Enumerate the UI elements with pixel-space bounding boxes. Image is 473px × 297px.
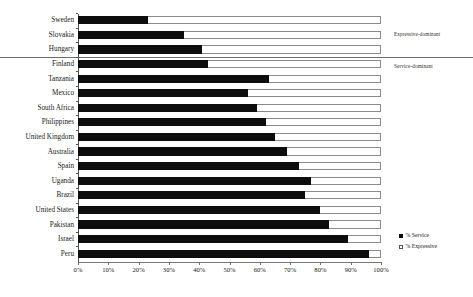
x-axis-tick — [260, 262, 261, 265]
y-axis-tick — [76, 173, 79, 174]
filled-square-icon — [399, 234, 403, 238]
bar-row: Sweden — [78, 14, 381, 29]
bar-segment-service — [78, 133, 275, 141]
bar-segment-service — [78, 147, 287, 155]
bar-segment-service — [78, 235, 348, 243]
y-axis-tick — [76, 130, 79, 131]
y-axis-tick — [76, 203, 79, 204]
y-axis-tick — [76, 246, 79, 247]
bar-row: South Africa — [78, 102, 381, 117]
y-axis-tick — [76, 42, 79, 43]
x-axis-tick — [108, 262, 109, 265]
x-axis-tick — [169, 262, 170, 265]
bar-row: United Kingdom — [78, 131, 381, 146]
x-axis-tick-label: 80% — [314, 266, 326, 273]
x-axis-tick — [78, 262, 79, 265]
y-axis-tick — [76, 71, 79, 72]
bar-segment-service — [78, 250, 369, 258]
x-axis-tick-label: 100% — [373, 266, 388, 273]
plot-area: SwedenSlovakiaHungaryFinlandTanzaniaMexi… — [78, 14, 381, 262]
bar-row: Mexico — [78, 87, 381, 102]
bar-row: Spain — [78, 160, 381, 175]
legend-item: % Service — [399, 233, 469, 239]
x-axis-tick — [320, 262, 321, 265]
x-axis-tick-label: 20% — [133, 266, 145, 273]
x-axis-tick-label: 60% — [254, 266, 266, 273]
bar-segment-service — [78, 206, 320, 214]
category-label: Tanzania — [48, 76, 74, 83]
bar-row: Brazil — [78, 189, 381, 204]
y-axis-tick — [76, 101, 79, 102]
x-axis-tick-label: 0% — [74, 266, 83, 273]
bar-segment-service — [78, 191, 305, 199]
category-label: Pakistan — [50, 222, 74, 229]
category-label: Sweden — [51, 18, 74, 25]
bar-row: Hungary — [78, 43, 381, 58]
category-label: South Africa — [37, 105, 74, 112]
hollow-square-icon — [399, 245, 403, 249]
x-axis-tick — [290, 262, 291, 265]
y-axis-tick — [76, 159, 79, 160]
category-label: United Kingdom — [25, 134, 74, 141]
bar-row: Australia — [78, 145, 381, 160]
bar-segment-service — [78, 177, 311, 185]
x-axis-tick — [381, 262, 382, 265]
bar-segment-service — [78, 60, 208, 68]
x-axis-tick-label: 40% — [193, 266, 205, 273]
x-axis-tick-label: 30% — [163, 266, 175, 273]
x-axis-tick — [230, 262, 231, 265]
bar-segment-service — [78, 89, 248, 97]
bar-row: Israel — [78, 233, 381, 248]
category-label: Mexico — [52, 91, 74, 98]
legend-label: % Service — [405, 233, 429, 239]
x-axis-tick — [351, 262, 352, 265]
bar-segment-service — [78, 220, 329, 228]
category-label: Brazil — [56, 193, 74, 200]
legend-item: % Expressive — [399, 244, 469, 250]
category-label: Peru — [61, 251, 74, 258]
category-label: United States — [35, 207, 74, 214]
bar-row: Uganda — [78, 174, 381, 189]
y-axis-tick — [76, 232, 79, 233]
bar-segment-service — [78, 118, 266, 126]
stacked-bar-chart: Expressive-dominant Service-dominant Swe… — [0, 0, 473, 297]
y-axis-tick — [76, 13, 79, 14]
category-label: Spain — [58, 164, 74, 171]
x-axis-tick-label: 70% — [284, 266, 296, 273]
y-axis-tick — [76, 57, 79, 58]
y-axis-tick — [76, 144, 79, 145]
y-axis-tick — [76, 217, 79, 218]
bar-segment-service — [78, 162, 299, 170]
bar-segment-service — [78, 16, 148, 24]
annotation-service-dominant: Service-dominant — [394, 63, 433, 69]
y-axis-tick — [76, 28, 79, 29]
y-axis-tick — [76, 188, 79, 189]
bar-row: Slovakia — [78, 29, 381, 44]
bar-row: Pakistan — [78, 218, 381, 233]
category-label: Philippines — [42, 120, 74, 127]
bar-segment-service — [78, 45, 202, 53]
category-label: Australia — [48, 149, 74, 156]
bar-segment-service — [78, 104, 257, 112]
category-label: Uganda — [52, 178, 74, 185]
y-axis-tick — [76, 115, 79, 116]
bar-row: Philippines — [78, 116, 381, 131]
category-label: Slovakia — [49, 32, 74, 39]
chart-legend: % Service% Expressive — [399, 233, 469, 256]
category-label: Finland — [52, 61, 74, 68]
x-axis-tick-label: 90% — [345, 266, 357, 273]
x-axis-tick-label: 50% — [223, 266, 235, 273]
annotation-expressive-dominant: Expressive-dominant — [394, 31, 440, 37]
bar-row: Finland — [78, 58, 381, 73]
legend-label: % Expressive — [405, 244, 437, 250]
bar-row: Peru — [78, 247, 381, 262]
y-axis-tick — [76, 86, 79, 87]
x-axis-tick-label: 10% — [102, 266, 114, 273]
bar-segment-service — [78, 75, 269, 83]
bar-segment-service — [78, 31, 184, 39]
category-label: Hungary — [49, 47, 74, 54]
x-axis-tick — [139, 262, 140, 265]
bar-row: Tanzania — [78, 72, 381, 87]
x-axis-tick — [199, 262, 200, 265]
bar-row: United States — [78, 204, 381, 219]
